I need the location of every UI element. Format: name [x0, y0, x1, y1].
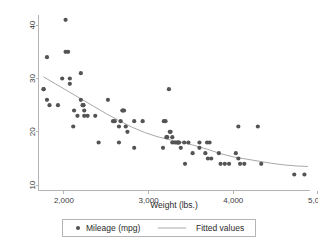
data-point [41, 87, 45, 91]
data-point [209, 156, 213, 160]
data-point [122, 108, 126, 112]
data-point [47, 103, 51, 107]
data-point [227, 162, 231, 166]
x-axis-title: Weight (lbs.) [150, 200, 198, 210]
data-point [161, 146, 165, 150]
y-tick-label: 20 [28, 127, 37, 136]
data-point [236, 156, 240, 160]
legend-label-fitted[interactable]: Fitted values [196, 223, 244, 233]
data-point [203, 151, 207, 155]
data-point [45, 98, 49, 102]
data-point [66, 50, 70, 54]
data-point [132, 146, 136, 150]
data-point [177, 140, 181, 144]
data-point [71, 124, 75, 128]
data-point [117, 124, 121, 128]
x-tick-label: 4,000 [223, 196, 244, 205]
data-point [124, 124, 128, 128]
data-point [182, 140, 186, 144]
data-point [169, 130, 173, 134]
data-point [86, 114, 90, 118]
x-tick-label: 5,000 [308, 196, 318, 205]
data-point [292, 172, 296, 176]
x-tick-label: 2,000 [54, 196, 75, 205]
data-point [186, 140, 190, 144]
data-point [79, 98, 83, 102]
data-point [106, 98, 110, 102]
fitted-values-line [44, 77, 308, 167]
data-point [56, 103, 60, 107]
data-point [256, 124, 260, 128]
data-point [242, 162, 246, 166]
chart-figure: 10203040 2,0003,0004,0005,000 Weight (lb… [0, 0, 318, 251]
data-point [45, 55, 49, 59]
data-point [132, 119, 136, 123]
data-point [93, 114, 97, 118]
chart-legend: Mileage (mpg) Fitted values [63, 220, 256, 237]
data-point [197, 146, 201, 150]
legend-label-mileage[interactable]: Mileage (mpg) [86, 223, 140, 233]
data-point [68, 82, 72, 86]
data-point [223, 162, 227, 166]
data-point [170, 135, 174, 139]
y-tick-label: 40 [28, 20, 37, 29]
data-point [125, 130, 129, 134]
data-point [64, 18, 68, 22]
legend-dot-icon [76, 226, 80, 230]
data-point [141, 119, 145, 123]
data-point [259, 162, 263, 166]
data-point [119, 119, 123, 123]
data-point [217, 151, 221, 155]
axes-group [39, 15, 310, 191]
data-point [113, 119, 117, 123]
data-point [163, 119, 167, 123]
data-point [167, 87, 171, 91]
data-point [81, 103, 85, 107]
data-point [191, 151, 195, 155]
data-point [197, 140, 201, 144]
data-point [302, 172, 306, 176]
data-point [75, 114, 79, 118]
data-point [207, 140, 211, 144]
data-points-group [41, 18, 306, 177]
y-tick-label: 30 [28, 74, 37, 83]
data-point [68, 76, 72, 80]
data-point [60, 76, 64, 80]
data-point [117, 140, 121, 144]
data-point [238, 162, 242, 166]
data-point [236, 124, 240, 128]
data-point [183, 162, 187, 166]
data-point [79, 71, 83, 75]
data-point [72, 108, 76, 112]
data-point [179, 146, 183, 150]
data-point [234, 151, 238, 155]
y-tick-label: 10 [28, 180, 37, 189]
y-ticks-group: 10203040 [28, 20, 39, 189]
data-point [165, 135, 169, 139]
data-point [218, 162, 222, 166]
data-point [82, 108, 86, 112]
data-point [97, 140, 101, 144]
scatter-plot: 10203040 2,0003,0004,0005,000 Weight (lb… [0, 0, 318, 251]
